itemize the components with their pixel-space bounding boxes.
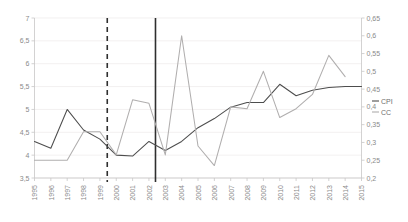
series-line-cc: [35, 36, 346, 166]
axes: [35, 18, 362, 178]
y-axis-right-tick-label: 0,55: [367, 50, 381, 57]
x-axis-tick-label: 1999: [97, 185, 104, 201]
y-axis-right-tick-label: 0,5: [367, 68, 377, 75]
x-axis-tick-label: 1995: [31, 185, 38, 201]
x-axis-tick-label: 2014: [342, 185, 349, 201]
x-axis-tick-label: 2004: [178, 185, 185, 201]
y-axis-left-tick-label: 4: [26, 152, 30, 159]
line-chart: 3,544,555,566,57 0,20,250,30,350,40,450,…: [0, 0, 408, 222]
legend-label-cc[interactable]: CC: [381, 109, 391, 116]
y-axis-right-tick-label: 0,25: [367, 157, 381, 164]
chart-container: 3,544,555,566,57 0,20,250,30,350,40,450,…: [0, 0, 408, 222]
y-axis-right-tick-label: 0,3: [367, 139, 377, 146]
y-axis-left-tick-labels: 3,544,555,566,57: [20, 15, 35, 182]
y-axis-right-tick-label: 0,35: [367, 121, 381, 128]
x-axis-tick-label: 2000: [113, 185, 120, 201]
x-axis-tick-label: 2010: [277, 185, 284, 201]
x-axis-tick-label: 2002: [146, 185, 153, 201]
y-axis-left-tick-label: 3,5: [20, 175, 30, 182]
data-series: [35, 36, 362, 166]
x-axis-tick-label: 1996: [48, 185, 55, 201]
vertical-reference-lines: [107, 18, 155, 182]
x-axis-tick-label: 2001: [129, 185, 136, 201]
x-axis-tick-label: 2009: [260, 185, 267, 201]
y-axis-left-tick-label: 4,5: [20, 129, 30, 136]
y-axis-right-tick-label: 0,4: [367, 103, 377, 110]
y-axis-left-tick-label: 6: [26, 60, 30, 67]
y-axis-left-tick-label: 7: [26, 15, 30, 22]
x-axis-tick-label: 2008: [244, 185, 251, 201]
x-axis-tick-label: 2005: [195, 185, 202, 201]
x-axis-tick-labels: 1995199619971998199920002001200220032004…: [31, 178, 365, 201]
x-axis-tick-label: 2011: [293, 185, 300, 200]
x-axis-tick-label: 2013: [326, 185, 333, 201]
y-axis-right-tick-label: 0,6: [367, 32, 377, 39]
gridlines: [35, 18, 362, 178]
x-axis-tick-label: 1998: [80, 185, 87, 201]
y-axis-left-tick-label: 5: [26, 106, 30, 113]
y-axis-right-tick-label: 0,45: [367, 86, 381, 93]
x-axis-tick-label: 2007: [228, 185, 235, 201]
x-axis-tick-label: 2003: [162, 185, 169, 201]
y-axis-left-tick-label: 6,5: [20, 37, 30, 44]
x-axis-tick-label: 2015: [358, 185, 365, 201]
x-axis-tick-label: 2006: [211, 185, 218, 201]
y-axis-right-tick-labels: 0,20,250,30,350,40,450,50,550,60,65: [362, 15, 381, 182]
y-axis-left-tick-label: 5,5: [20, 83, 30, 90]
y-axis-right-tick-label: 0,65: [367, 15, 381, 22]
legend-label-cpi[interactable]: CPI: [381, 98, 393, 105]
y-axis-right-tick-label: 0,2: [367, 175, 377, 182]
x-axis-tick-label: 2012: [309, 185, 316, 201]
x-axis-tick-label: 1997: [64, 185, 71, 201]
